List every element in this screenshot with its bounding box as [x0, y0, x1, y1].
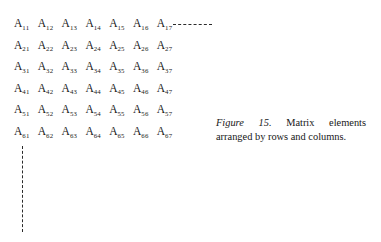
matrix-element-subscript: 54: [94, 110, 101, 117]
matrix-element-subscript: 43: [70, 88, 77, 95]
matrix-element: A31: [14, 56, 38, 79]
matrix-element: A62: [38, 121, 62, 144]
matrix-element-symbol: A: [157, 103, 165, 115]
matrix-element-subscript: 56: [141, 110, 148, 117]
figure-caption-label: Figure 15.: [216, 117, 272, 128]
matrix-element: A13: [62, 13, 86, 36]
matrix-element-subscript: 35: [118, 67, 125, 74]
matrix-element-subscript: 25: [118, 45, 125, 52]
matrix-element-symbol: A: [109, 39, 117, 51]
matrix-element-symbol: A: [85, 125, 93, 137]
matrix-row: A31A32A33A34A35A36A37: [14, 56, 181, 78]
matrix-element-symbol: A: [62, 60, 70, 72]
column-continuation-dashed-line: [22, 146, 23, 232]
matrix-element: A56: [133, 99, 157, 122]
figure-caption: Figure 15. Matrix elements arranged by r…: [216, 116, 366, 143]
matrix-element: A47: [157, 78, 181, 101]
matrix-element-subscript: 65: [118, 132, 125, 139]
matrix-element: A64: [85, 121, 109, 144]
matrix-element-symbol: A: [109, 125, 117, 137]
matrix-element: A26: [133, 35, 157, 58]
matrix-element-symbol: A: [109, 82, 117, 94]
matrix-element-symbol: A: [62, 125, 70, 137]
matrix-element: A52: [38, 99, 62, 122]
matrix-element: A54: [85, 99, 109, 122]
figure-container: A11A12A13A14A15A16A17A21A22A23A24A25A26A…: [0, 0, 381, 242]
matrix-element-subscript: 44: [94, 88, 101, 95]
matrix-element-symbol: A: [38, 125, 46, 137]
matrix-element: A53: [62, 99, 86, 122]
matrix-element-subscript: 13: [70, 24, 77, 31]
matrix-element: A23: [62, 35, 86, 58]
matrix-element-subscript: 16: [141, 24, 148, 31]
matrix-element-subscript: 12: [46, 24, 53, 31]
matrix-element-subscript: 42: [46, 88, 53, 95]
matrix-row: A51A52A53A54A55A56A57: [14, 99, 181, 121]
matrix-element-subscript: 66: [141, 132, 148, 139]
matrix-element-subscript: 23: [70, 45, 77, 52]
matrix-element-symbol: A: [62, 82, 70, 94]
matrix-element-symbol: A: [157, 82, 165, 94]
matrix-element-symbol: A: [62, 103, 70, 115]
matrix-row: A11A12A13A14A15A16A17: [14, 13, 181, 35]
matrix-element-subscript: 27: [165, 45, 172, 52]
matrix-element: A14: [85, 13, 109, 36]
matrix-element-subscript: 57: [165, 110, 172, 117]
matrix-element-symbol: A: [62, 17, 70, 29]
matrix-element-subscript: 37: [165, 67, 172, 74]
matrix-element: A44: [85, 78, 109, 101]
matrix-element-subscript: 52: [46, 110, 53, 117]
matrix-element-subscript: 47: [165, 88, 172, 95]
matrix-element: A42: [38, 78, 62, 101]
matrix-element-subscript: 15: [118, 24, 125, 31]
matrix-element: A65: [109, 121, 133, 144]
matrix-element-subscript: 53: [70, 110, 77, 117]
matrix-element-subscript: 67: [165, 132, 172, 139]
matrix-element: A66: [133, 121, 157, 144]
matrix-element: A63: [62, 121, 86, 144]
matrix-element: A33: [62, 56, 86, 79]
matrix-element-subscript: 51: [22, 110, 29, 117]
matrix-element-subscript: 26: [141, 45, 148, 52]
matrix-element-subscript: 24: [94, 45, 101, 52]
matrix-element-grid: A11A12A13A14A15A16A17A21A22A23A24A25A26A…: [14, 13, 181, 143]
matrix-element-subscript: 64: [94, 132, 101, 139]
matrix-element-subscript: 31: [22, 67, 29, 74]
matrix-element: A61: [14, 121, 38, 144]
matrix-element: A46: [133, 78, 157, 101]
matrix-element-symbol: A: [85, 82, 93, 94]
matrix-element: A21: [14, 35, 38, 58]
matrix-element-subscript: 41: [22, 88, 29, 95]
matrix-element-subscript: 34: [94, 67, 101, 74]
matrix-element-subscript: 14: [94, 24, 101, 31]
matrix-element-subscript: 63: [70, 132, 77, 139]
matrix-element-subscript: 11: [22, 24, 29, 31]
matrix-element-symbol: A: [85, 103, 93, 115]
matrix-element: A34: [85, 56, 109, 79]
matrix-element: A22: [38, 35, 62, 58]
matrix-element: A55: [109, 99, 133, 122]
matrix-element-symbol: A: [38, 103, 46, 115]
matrix-element-symbol: A: [38, 60, 46, 72]
matrix-row: A41A42A43A44A45A46A47: [14, 78, 181, 100]
matrix-element: A51: [14, 99, 38, 122]
matrix-element-symbol: A: [62, 39, 70, 51]
matrix-element: A37: [157, 56, 181, 79]
matrix-element-symbol: A: [109, 17, 117, 29]
matrix-element-symbol: A: [109, 60, 117, 72]
matrix-element-symbol: A: [109, 103, 117, 115]
row-continuation-dashed-line: [173, 24, 212, 25]
matrix-element: A41: [14, 78, 38, 101]
matrix-element-subscript: 62: [46, 132, 53, 139]
matrix-element: A35: [109, 56, 133, 79]
matrix-element-subscript: 45: [118, 88, 125, 95]
matrix-element: A45: [109, 78, 133, 101]
matrix-element: A16: [133, 13, 157, 36]
matrix-element: A43: [62, 78, 86, 101]
matrix-element-symbol: A: [38, 17, 46, 29]
matrix-element: A57: [157, 99, 181, 122]
matrix-element-symbol: A: [85, 17, 93, 29]
matrix-element-subscript: 21: [22, 45, 29, 52]
matrix-element-subscript: 55: [118, 110, 125, 117]
matrix-element: A36: [133, 56, 157, 79]
